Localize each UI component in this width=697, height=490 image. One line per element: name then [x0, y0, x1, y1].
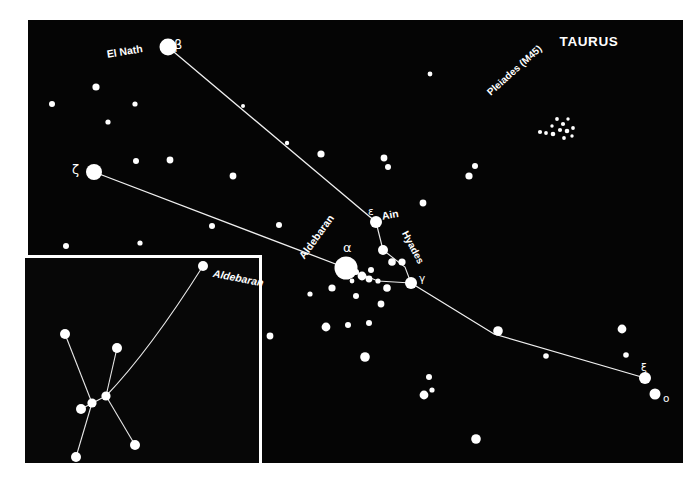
label-xi: ξ [641, 361, 647, 373]
named-star-dot [650, 389, 661, 400]
label-epsilon: ε [368, 205, 374, 217]
pleiades-star-dot [555, 117, 559, 121]
star-dot [383, 284, 391, 292]
page-title: TAURUS [560, 34, 619, 49]
pleiades-star-dot [570, 134, 573, 137]
pleiades-star-dot [550, 124, 553, 127]
inset-star-dot [87, 398, 96, 407]
named-star-dot [335, 257, 358, 280]
star-dot [230, 173, 237, 180]
inset-sky [22, 255, 262, 466]
inset-star-dot [101, 391, 110, 400]
star-dot [472, 163, 478, 169]
star-dot [618, 325, 627, 334]
star-dot [543, 353, 549, 359]
star-dot [398, 258, 405, 265]
star-dot [429, 387, 434, 392]
star-dot [63, 243, 69, 249]
star-dot [378, 245, 388, 255]
pleiades-star-dot [538, 130, 542, 134]
label-omicron: ο [663, 392, 669, 404]
label-gamma: γ [419, 272, 425, 284]
chart-canvas: TAURUS El Nath β ζ Aldebaran α ε Ain Hya… [0, 0, 697, 490]
inset-star-dot [76, 404, 86, 414]
star-dot [345, 322, 351, 328]
inset-star-dot [198, 261, 208, 271]
star-dot [317, 150, 324, 157]
star-dot [381, 155, 388, 162]
star-dot [132, 101, 137, 106]
star-dot [366, 276, 373, 283]
star-dot [276, 222, 282, 228]
star-dot [428, 72, 433, 77]
star-dot [378, 301, 385, 308]
inset-star-dot [71, 452, 81, 462]
label-zeta: ζ [72, 162, 79, 177]
star-dot [105, 119, 110, 124]
star-dot [167, 157, 174, 164]
star-dot [350, 279, 355, 284]
star-dot [209, 223, 215, 229]
star-dot [385, 164, 391, 170]
pleiades-star-dot [561, 122, 565, 126]
star-dot [426, 374, 432, 380]
star-dot [92, 83, 99, 90]
star-dot [465, 172, 472, 179]
pleiades-star-dot [551, 132, 556, 137]
pleiades-star-dot [544, 131, 548, 135]
pleiades-star-dot [571, 126, 575, 130]
star-dot [285, 141, 289, 145]
inset-star-dot [130, 440, 140, 450]
star-dot [368, 267, 374, 273]
pleiades-star-dot [558, 128, 562, 132]
star-dot [133, 158, 139, 164]
named-star-dot [86, 164, 102, 180]
label-alpha: α [343, 240, 352, 255]
pleiades-star-dot [562, 136, 566, 140]
star-chart-figure: TAURUS El Nath β ζ Aldebaran α ε Ain Hya… [0, 0, 697, 490]
star-dot [493, 326, 503, 336]
star-dot [388, 258, 396, 266]
star-dot [420, 200, 427, 207]
named-star-dot [405, 277, 417, 289]
star-dot [623, 352, 629, 358]
star-dot [328, 284, 335, 291]
pleiades-star-dot [566, 117, 569, 120]
named-star-dot [370, 216, 382, 228]
star-dot [322, 323, 331, 332]
inset-star-dot [60, 329, 70, 339]
star-dot [137, 240, 142, 245]
star-dot [420, 391, 429, 400]
inset-panel: Aldebaran [22, 255, 265, 466]
named-star-dot [639, 372, 651, 384]
star-dot [241, 104, 245, 108]
star-dot [307, 291, 312, 296]
label-beta: β [174, 37, 182, 52]
star-dot [366, 320, 372, 326]
star-dot [353, 293, 359, 299]
star-dot [471, 434, 481, 444]
star-dot [375, 278, 380, 283]
star-dot [360, 352, 370, 362]
star-dot [267, 333, 274, 340]
star-dot [49, 101, 55, 107]
pleiades-star-dot [565, 129, 570, 134]
inset-star-dot [112, 343, 122, 353]
star-dot [358, 272, 367, 281]
